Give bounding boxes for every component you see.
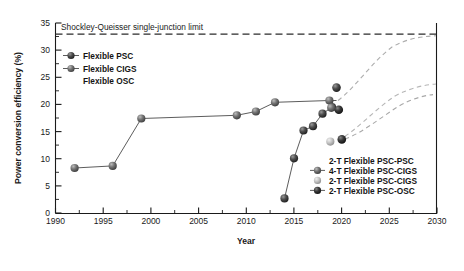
x-tick-group: 1990 1995 2000 2005 2010 2015 2020 2025 … (46, 208, 447, 227)
data-point (335, 106, 344, 115)
y-tick-label: 30 (41, 45, 51, 55)
legend-marker-sphere-darkest-icon (314, 187, 321, 194)
y-axis-title: Power conversion efficiency (%) (13, 52, 23, 184)
legend-item-psc-psc-2t[interactable]: 2-T Flexible PSC-PSC (329, 156, 414, 166)
projection-curves (338, 36, 436, 141)
chart-plot-area: 0 5 10 15 20 25 30 35 19 (0, 0, 464, 271)
shockley-queisser-label: Shockley-Queisser single-junction limit (61, 22, 204, 32)
middle-projection-curve (338, 84, 436, 141)
data-point (318, 110, 326, 118)
data-point (71, 164, 79, 172)
data-point (233, 111, 241, 119)
legend-item-flexible-osc[interactable]: Flexible OSC (83, 76, 134, 86)
x-tick-label: 2020 (332, 216, 351, 226)
data-point-psc-osc-2t (338, 135, 347, 144)
data-point (137, 114, 145, 122)
y-tick-label: 15 (41, 127, 51, 137)
data-point (299, 126, 307, 134)
y-tick-label: 10 (41, 154, 51, 164)
data-point (109, 162, 117, 170)
x-tick-label: 2025 (380, 216, 399, 226)
lower-projection-curve (345, 95, 433, 139)
data-point-psc-cigs-4t (327, 104, 335, 112)
x-tick-label: 1995 (94, 216, 113, 226)
legend-top-left: Flexible PSC Flexible CIGS Flexible OSC (63, 51, 137, 87)
legend-label: 2-T Flexible PSC-OSC (329, 186, 415, 196)
upper-projection-curve (338, 36, 436, 101)
data-point (252, 107, 260, 115)
x-tick-label: 1990 (46, 216, 65, 226)
data-point-psc-cigs-2t (326, 138, 334, 146)
y-tick-label: 25 (41, 72, 51, 82)
y-tick-label: 5 (45, 181, 50, 191)
legend-marker-sphere-dark-icon (67, 52, 74, 59)
y-tick-group: 0 5 10 15 20 25 30 35 (41, 18, 62, 218)
legend-marker-sphere-gray-icon (67, 65, 74, 72)
legend-label: 4-T Flexible PSC-CIGS (329, 166, 418, 176)
x-axis-title: Year (237, 236, 256, 246)
legend-label: 2-T Flexible PSC-CIGS (329, 176, 418, 186)
legend-item-psc-osc-2t[interactable]: 2-T Flexible PSC-OSC (310, 186, 415, 196)
y-tick-label: 20 (41, 99, 51, 109)
data-point (290, 154, 298, 162)
legend-label: Flexible CIGS (83, 64, 137, 74)
x-tick-label: 2010 (237, 216, 256, 226)
x-tick-label: 2030 (428, 216, 447, 226)
legend-item-flexible-psc[interactable]: Flexible PSC (63, 51, 133, 61)
chart-container: 0 5 10 15 20 25 30 35 19 (0, 0, 464, 271)
legend-label: Flexible OSC (83, 76, 134, 86)
y-tick-label: 35 (41, 18, 51, 28)
data-point (271, 98, 279, 106)
x-tick-label: 2000 (141, 216, 160, 226)
data-point-psc-psc (332, 83, 341, 92)
legend-label: Flexible PSC (83, 51, 133, 61)
x-tick-label: 2015 (284, 216, 303, 226)
data-point-group-tandem (326, 83, 346, 145)
legend-marker-sphere-mid-gray-icon (314, 167, 321, 174)
legend-item-psc-cigs-4t[interactable]: 4-T Flexible PSC-CIGS (310, 166, 418, 176)
data-point (280, 194, 288, 202)
legend-item-flexible-cigs[interactable]: Flexible CIGS (63, 64, 137, 74)
legend-bottom-right: 2-T Flexible PSC-PSC 4-T Flexible PSC-CI… (310, 156, 418, 196)
legend-item-psc-cigs-2t[interactable]: 2-T Flexible PSC-CIGS (314, 176, 418, 186)
data-point (309, 122, 317, 130)
legend-label: 2-T Flexible PSC-PSC (329, 156, 414, 166)
legend-marker-sphere-light-gray-icon (314, 177, 321, 184)
x-tick-label: 2005 (189, 216, 208, 226)
